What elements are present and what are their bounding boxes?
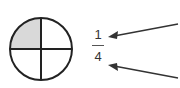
arrow-to-numerator: [108, 24, 178, 39]
arrow-to-denominator: [108, 63, 178, 78]
denominator: 4: [90, 50, 106, 64]
circle-divided-into-quarters: [10, 18, 72, 80]
numerator: 1: [90, 28, 106, 42]
fraction-bar: [92, 45, 104, 46]
fraction-label: 1 4: [90, 28, 106, 64]
